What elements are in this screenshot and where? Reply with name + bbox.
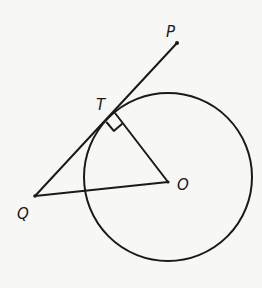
- point-p-dot: [175, 41, 179, 45]
- radius-to: [115, 113, 168, 182]
- segment-qo: [35, 182, 168, 196]
- label-o: O: [177, 176, 189, 194]
- right-angle-marker: [107, 123, 122, 131]
- point-q-dot: [33, 194, 37, 198]
- label-q: Q: [17, 205, 29, 223]
- tangent-line-qp: [35, 43, 177, 196]
- tangent-circle-diagram: P T Q O: [0, 0, 262, 288]
- label-p: P: [166, 23, 176, 41]
- circle: [84, 93, 252, 261]
- label-t: T: [96, 96, 107, 114]
- point-o-dot: [166, 180, 169, 183]
